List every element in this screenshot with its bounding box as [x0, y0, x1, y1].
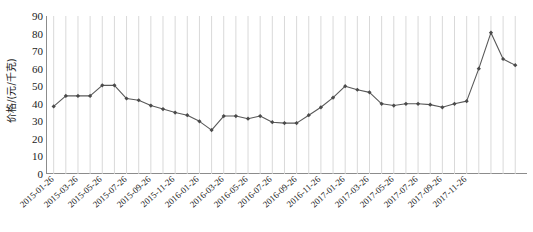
data-point-marker [355, 88, 359, 92]
data-point-marker [270, 120, 274, 124]
data-point-marker [489, 31, 493, 35]
data-point-marker [440, 105, 444, 109]
data-point-marker [161, 107, 165, 111]
data-point-marker [149, 103, 153, 107]
y-axis-title-text: 价格/(元/千克) [3, 58, 18, 123]
y-axis-tick: 60 [32, 63, 43, 75]
data-point-marker [428, 103, 432, 107]
data-point-marker [477, 67, 481, 71]
plot-svg [47, 16, 528, 174]
y-axis-title: 价格/(元/千克) [0, 0, 20, 180]
data-point-marker [76, 94, 80, 98]
price-line-chart: 价格/(元/千克) 0102030405060708090 2015-01-26… [0, 0, 533, 232]
x-axis-tick-labels: 2015-01-262015-03-262015-05-262015-07-26… [0, 174, 533, 232]
data-point-marker [282, 121, 286, 125]
data-point-marker [465, 99, 469, 103]
data-point-marker [392, 103, 396, 107]
data-point-marker [173, 110, 177, 114]
data-point-marker [234, 114, 238, 118]
y-axis-tick: 70 [32, 45, 43, 57]
y-axis-tick: 40 [32, 98, 43, 110]
data-point-marker [258, 114, 262, 118]
y-axis-tick: 30 [32, 115, 43, 127]
data-point-marker [246, 117, 250, 121]
data-point-marker [137, 98, 141, 102]
y-axis-tick: 90 [32, 10, 43, 22]
data-point-marker [501, 57, 505, 61]
plot-area [46, 16, 527, 174]
y-axis-tick: 10 [32, 150, 43, 162]
y-axis-tick: 80 [32, 28, 43, 40]
data-point-marker [185, 113, 189, 117]
data-point-marker [513, 63, 517, 67]
data-point-marker [452, 102, 456, 106]
y-axis-tick: 50 [32, 80, 43, 92]
y-axis-tick: 20 [32, 133, 43, 145]
data-point-marker [416, 102, 420, 106]
data-point-marker [404, 102, 408, 106]
